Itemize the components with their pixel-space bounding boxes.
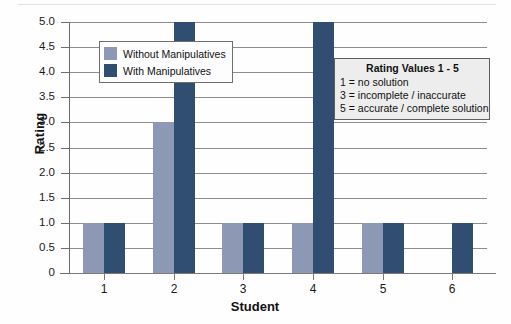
legend-item: With Manipulatives	[104, 62, 228, 79]
legend-item: Without Manipulatives	[104, 45, 228, 62]
rating-values-box: Rating Values 1 - 5 1 = no solution 3 = …	[334, 58, 490, 120]
y-axis-title: Rating	[32, 94, 47, 174]
rating-values-line-2: 3 = incomplete / inaccurate	[340, 89, 485, 102]
gridline	[69, 198, 487, 199]
bar-with-manipulatives-student-1	[104, 223, 125, 273]
legend-label-with-manipulatives: With Manipulatives	[123, 65, 211, 77]
bar-with-manipulatives-student-6	[452, 223, 473, 273]
y-axis-tick-label: 4.0	[21, 66, 55, 77]
scan-artifact-line	[18, 4, 496, 5]
bar-with-manipulatives-student-4	[313, 22, 334, 273]
gridline	[69, 148, 487, 149]
x-axis-tick	[313, 273, 314, 280]
gridline	[69, 248, 487, 249]
y-axis-tick-label: 4.5	[21, 41, 55, 52]
bar-without-manipulatives-student-1	[83, 223, 104, 273]
gridline	[69, 173, 487, 174]
x-axis-line	[60, 273, 496, 274]
y-axis-tick-label: 3.5	[21, 91, 55, 102]
x-axis-tick	[174, 273, 175, 280]
x-axis-tick	[452, 273, 453, 280]
bar-without-manipulatives-student-2	[153, 122, 174, 273]
legend-label-without-manipulatives: Without Manipulatives	[123, 48, 226, 60]
y-axis-tick	[61, 248, 69, 249]
x-axis-tick-label: 4	[293, 282, 333, 296]
x-axis-tick	[243, 273, 244, 280]
y-axis-tick-label: 1.5	[21, 192, 55, 203]
rating-values-line-1: 1 = no solution	[340, 76, 485, 89]
x-axis-title: Student	[205, 299, 305, 314]
rating-values-line-3: 5 = accurate / complete solution	[340, 102, 485, 115]
y-axis-tick-label: 3.0	[21, 116, 55, 127]
legend-swatch-without-manipulatives	[104, 47, 117, 60]
x-axis-tick-label: 1	[84, 282, 124, 296]
y-axis-line	[69, 22, 70, 274]
bar-without-manipulatives-student-4	[292, 223, 313, 273]
x-axis-tick-label: 2	[154, 282, 194, 296]
x-axis-tick	[104, 273, 105, 280]
gridline	[69, 223, 487, 224]
rating-values-title: Rating Values 1 - 5	[340, 62, 485, 75]
y-axis-tick	[61, 72, 69, 73]
x-axis-tick-label: 3	[223, 282, 263, 296]
x-axis-tick-label: 5	[363, 282, 403, 296]
bar-without-manipulatives-student-5	[362, 223, 383, 273]
bar-without-manipulatives-student-3	[222, 223, 243, 273]
y-axis-tick	[61, 47, 69, 48]
legend-swatch-with-manipulatives	[104, 64, 117, 77]
x-axis-tick-label: 6	[432, 282, 472, 296]
bar-with-manipulatives-student-5	[383, 223, 404, 273]
y-axis-tick	[61, 223, 69, 224]
y-axis-tick	[61, 273, 69, 274]
y-axis-tick-label: 2.5	[21, 142, 55, 153]
y-axis-tick-label: 2.0	[21, 167, 55, 178]
y-axis-tick-label: 0	[21, 267, 55, 278]
gridline	[69, 122, 487, 123]
y-axis-tick	[61, 198, 69, 199]
y-axis-tick	[61, 148, 69, 149]
y-axis-tick-label: 0.5	[21, 242, 55, 253]
y-axis-tick	[61, 122, 69, 123]
gridline	[69, 22, 487, 23]
y-axis-tick	[61, 173, 69, 174]
y-axis-tick-label: 1.0	[21, 217, 55, 228]
y-axis-tick	[61, 22, 69, 23]
bar-with-manipulatives-student-3	[243, 223, 264, 273]
y-axis-tick	[61, 97, 69, 98]
y-axis-tick-label: 5.0	[21, 16, 55, 27]
chart-legend: Without Manipulatives With Manipulatives	[99, 41, 233, 83]
x-axis-tick	[383, 273, 384, 280]
